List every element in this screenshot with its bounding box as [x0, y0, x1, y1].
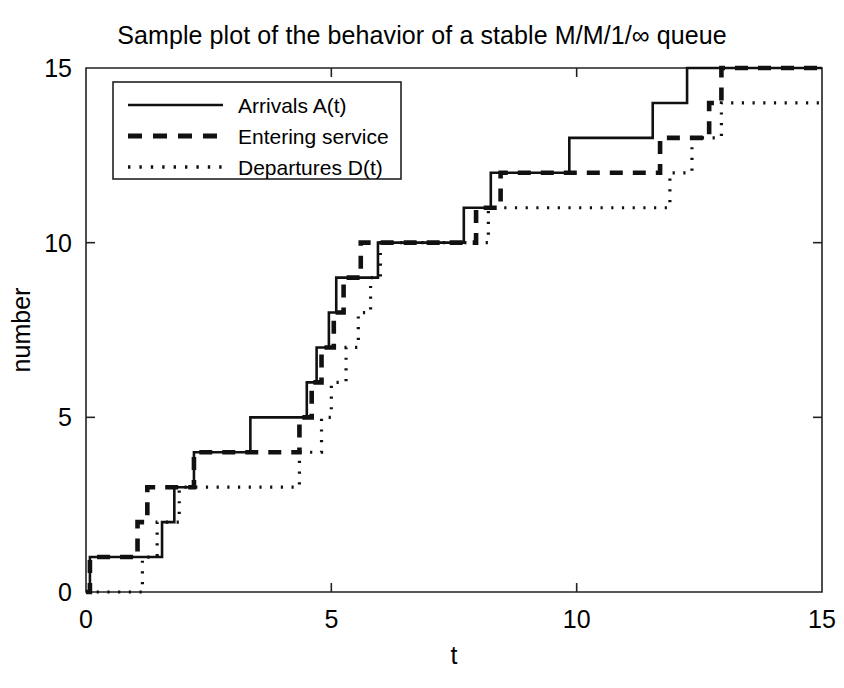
legend-label: Entering service [238, 125, 389, 148]
y-tick-label: 10 [44, 229, 72, 257]
x-axis-title: t [451, 641, 458, 669]
chart-legend: Arrivals A(t)Entering serviceDepartures … [113, 82, 401, 179]
x-tick-label: 10 [563, 605, 591, 633]
x-tick-label: 15 [808, 605, 836, 633]
legend-label: Departures D(t) [238, 156, 383, 179]
chart-figure: Sample plot of the behavior of a stable … [0, 0, 844, 688]
plot-canvas: Sample plot of the behavior of a stable … [0, 0, 844, 688]
legend-label: Arrivals A(t) [238, 94, 347, 117]
y-tick-label: 15 [44, 54, 72, 82]
y-tick-label: 5 [58, 403, 72, 431]
y-axis-title: number [7, 288, 35, 373]
y-tick-label: 0 [58, 578, 72, 606]
x-tick-label: 0 [79, 605, 93, 633]
x-tick-label: 5 [324, 605, 338, 633]
chart-title: Sample plot of the behavior of a stable … [117, 21, 727, 49]
